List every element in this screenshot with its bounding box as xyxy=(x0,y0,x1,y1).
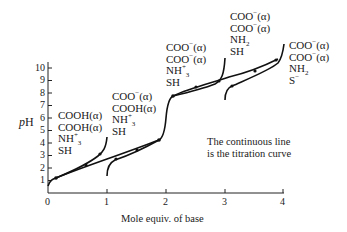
y-ticks xyxy=(48,68,52,181)
y-tick-8: 8 xyxy=(31,88,45,98)
x-tick-0: 0 xyxy=(45,197,50,207)
x-tick-3: 3 xyxy=(222,197,227,207)
x-tick-1: 1 xyxy=(104,197,109,207)
y-axis-label: pH xyxy=(19,117,34,129)
titration-chart xyxy=(0,0,347,232)
y-tick-10: 10 xyxy=(31,63,45,73)
y-tick-2: 2 xyxy=(31,163,45,173)
x-ticks xyxy=(107,189,283,193)
species-label-4: COO−(α) COO−(α) NH2 S− xyxy=(289,40,329,86)
x-tick-2: 2 xyxy=(163,197,168,207)
annotation-note: The continuous line is the titration cur… xyxy=(207,136,291,160)
species-label-3: COO−(α) COO−(α) NH2 SH xyxy=(230,11,270,57)
species-label-0: COOH(α) COOH(α) NH+3 SH xyxy=(58,110,102,156)
x-axis-label: Mole equiv. of base xyxy=(121,213,204,225)
species-label-2: COO−(α) COO−(α) NH+3 SH xyxy=(166,42,206,88)
y-tick-3: 3 xyxy=(31,150,45,160)
y-tick-7: 7 xyxy=(31,100,45,110)
y-tick-1: 1 xyxy=(31,175,45,185)
species-label-1: COO−(α) COOH(α) NH+3 SH xyxy=(112,91,156,137)
x-tick-4: 4 xyxy=(280,197,285,207)
y-tick-9: 9 xyxy=(31,75,45,85)
y-tick-4: 4 xyxy=(31,138,45,148)
